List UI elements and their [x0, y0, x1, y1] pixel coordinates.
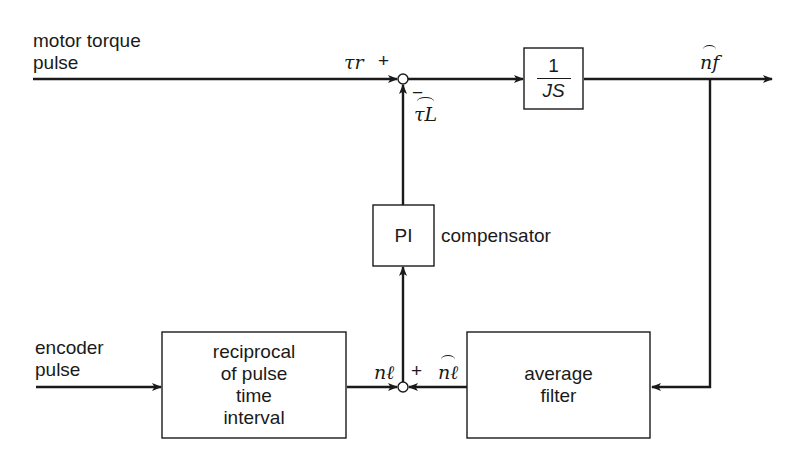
tau-L-hat-label: τL: [414, 104, 437, 124]
motor-torque-label: motor torque pulse: [33, 30, 141, 74]
top-plus-sign: +: [378, 50, 389, 72]
bottom-plus-sign: +: [411, 360, 422, 382]
reciprocal-block-label: reciprocal of pulse time interval: [162, 332, 346, 438]
plant-transfer-function: 1 JS: [537, 56, 571, 101]
feedback-branch-line: [652, 79, 710, 387]
n-l-label: nℓ: [374, 362, 394, 382]
compensator-label: compensator: [441, 225, 551, 247]
n-l-hat-label: nℓ: [438, 362, 458, 382]
block-diagram: motor torque pulse encoder pulse τr + − …: [0, 0, 793, 462]
pi-block-label: PI: [373, 205, 434, 266]
bottom-summing-junction: [398, 382, 408, 392]
plant-block-text: 1 JS: [524, 48, 583, 109]
encoder-label: encoder pulse: [35, 337, 104, 381]
tau-r-label: τr: [344, 52, 364, 72]
n-f-hat-label: nf: [700, 52, 719, 72]
average-filter-label: average filter: [467, 332, 650, 438]
top-summing-junction: [398, 74, 408, 84]
